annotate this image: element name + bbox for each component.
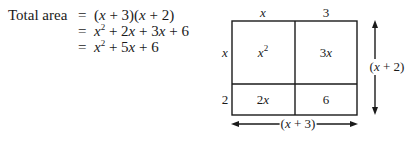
width-label: (x + 3)	[280, 116, 317, 132]
left-label-2: 2	[222, 92, 229, 108]
cell-6: 6	[323, 92, 330, 108]
arrow-right-icon	[350, 121, 358, 127]
cell-2x: 2x	[257, 92, 269, 108]
top-label-x: x	[260, 5, 266, 21]
left-label-x: x	[222, 45, 228, 61]
arrow-up-icon	[372, 20, 378, 28]
arrow-down-icon	[372, 107, 378, 115]
cell-3x: 3x	[320, 45, 332, 61]
cell-x-squared: x2	[258, 45, 268, 61]
top-label-3: 3	[323, 5, 330, 21]
height-label: (x + 2)	[369, 59, 405, 75]
arrow-left-icon	[231, 121, 239, 127]
